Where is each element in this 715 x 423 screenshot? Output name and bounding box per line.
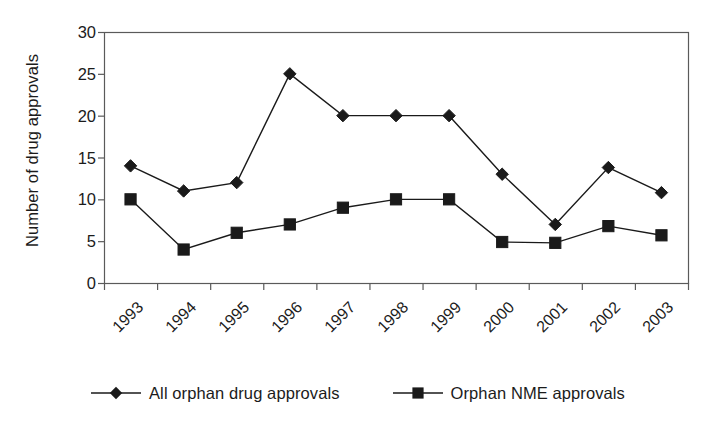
square-marker-icon [392,385,444,401]
chart-legend: All orphan drug approvalsOrphan NME appr… [0,376,715,410]
data-point-square [231,227,242,238]
square-marker-icon-glyph [392,385,444,401]
data-point-diamond [337,109,349,121]
legend-entry[interactable]: Orphan NME approvals [392,384,625,403]
data-point-diamond [124,160,136,172]
series-1 [124,68,667,231]
data-point-square [337,202,348,213]
data-point-diamond [231,176,243,188]
data-point-square [550,237,561,248]
chart-container: Number of drug approvals 051015202530 19… [0,0,715,423]
data-point-square [497,236,508,247]
data-point-square [390,194,401,205]
data-point-square [178,244,189,255]
diamond-marker-icon-glyph [90,385,142,401]
diamond-marker-icon [90,385,142,401]
data-point-diamond [390,109,402,121]
data-point-square [443,194,454,205]
series-2 [125,194,667,255]
data-point-diamond [284,68,296,80]
data-point-square [656,230,667,241]
legend-entry[interactable]: All orphan drug approvals [90,384,340,403]
data-point-diamond [655,186,667,198]
data-point-square [284,219,295,230]
data-point-square [603,221,614,232]
series-line [131,199,662,249]
legend-label: All orphan drug approvals [149,384,340,403]
data-point-square [125,194,136,205]
data-point-diamond [177,185,189,197]
plot-frame [105,33,689,284]
legend-label: Orphan NME approvals [451,384,625,403]
plot-area [0,0,715,423]
